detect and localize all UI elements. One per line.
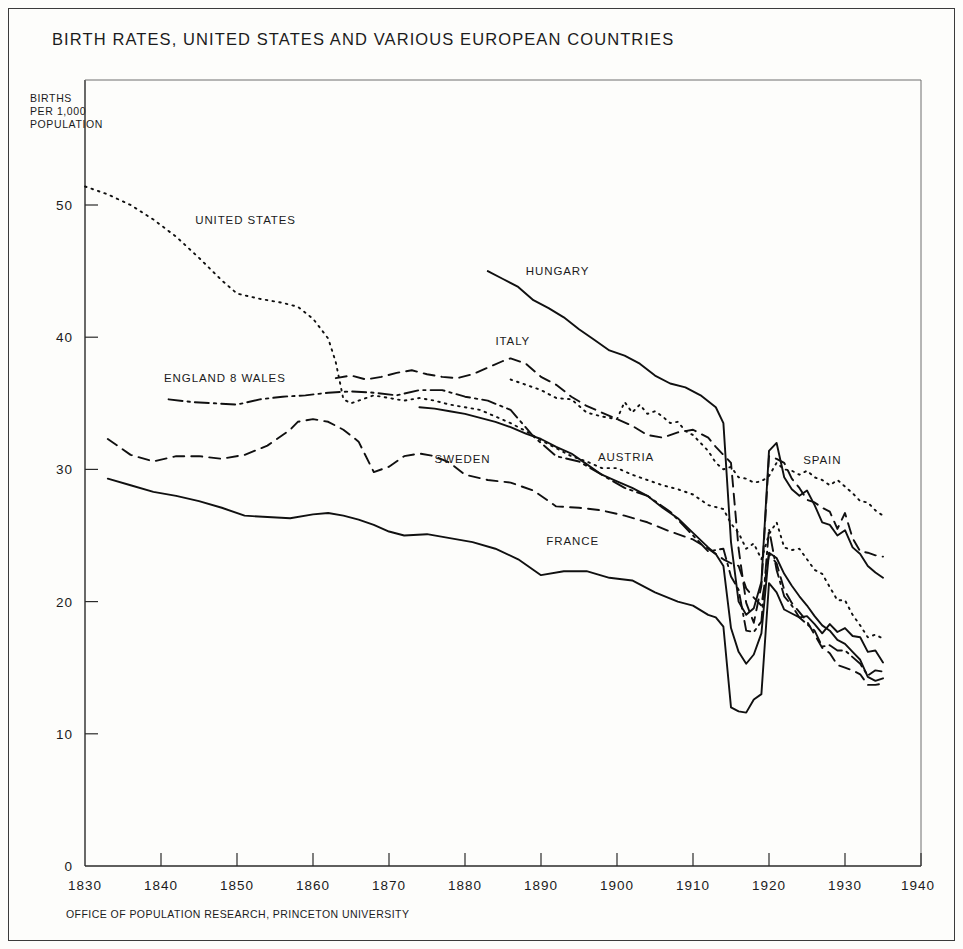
y-tick-label: 40 xyxy=(56,330,73,345)
series-line-spain xyxy=(511,380,883,516)
x-tick-label: 1850 xyxy=(220,878,254,893)
series-label-austria: AUSTRIA xyxy=(598,451,654,463)
series-lines xyxy=(85,186,883,712)
series-label-sweden: SWEDEN xyxy=(435,453,491,465)
series-label-united-states: UNITED STATES xyxy=(195,214,296,226)
series-label-france: FRANCE xyxy=(546,535,599,547)
x-tick-label: 1920 xyxy=(752,878,786,893)
y-tick-label: 10 xyxy=(56,727,73,742)
series-label-spain: SPAIN xyxy=(803,454,841,466)
x-tick-label: 1890 xyxy=(524,878,558,893)
x-tick-label: 1940 xyxy=(901,878,935,893)
series-label-italy: ITALY xyxy=(495,335,530,347)
axis-tick-labels: 0102030405018301840185018601870188018901… xyxy=(56,198,935,893)
series-labels: UNITED STATESENGLAND 8 WALESSWEDENFRANCE… xyxy=(164,214,841,547)
series-label-england-wales: ENGLAND 8 WALES xyxy=(164,372,286,384)
axis-ticks xyxy=(85,205,921,866)
series-line-austria xyxy=(419,407,883,681)
x-tick-label: 1910 xyxy=(676,878,710,893)
x-tick-label: 1880 xyxy=(448,878,482,893)
x-tick-label: 1900 xyxy=(600,878,634,893)
x-tick-label: 1840 xyxy=(144,878,178,893)
y-tick-label: 0 xyxy=(64,859,73,874)
credit-line: OFFICE OF POPULATION RESEARCH, PRINCETON… xyxy=(66,908,409,920)
chart-page: BIRTH RATES, UNITED STATES AND VARIOUS E… xyxy=(0,0,963,949)
series-line-united-states xyxy=(85,186,883,638)
x-tick-label: 1930 xyxy=(828,878,862,893)
birth-rates-line-chart: 0102030405018301840185018601870188018901… xyxy=(0,0,963,949)
x-tick-label: 1830 xyxy=(68,878,102,893)
x-tick-label: 1870 xyxy=(372,878,406,893)
plot-frame xyxy=(85,80,921,866)
y-tick-label: 30 xyxy=(56,462,73,477)
y-tick-label: 20 xyxy=(56,595,73,610)
series-line-france xyxy=(108,479,883,713)
y-tick-label: 50 xyxy=(56,198,73,213)
series-label-hungary: HUNGARY xyxy=(526,265,590,277)
x-tick-label: 1860 xyxy=(296,878,330,893)
